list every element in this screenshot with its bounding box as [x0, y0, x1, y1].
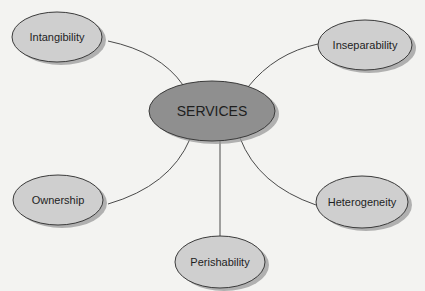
node-label: Ownership [32, 194, 85, 206]
center-node: SERVICES [149, 81, 275, 141]
node-label: Heterogeneity [328, 196, 397, 208]
node-inseparability: Inseparability [318, 20, 412, 70]
nodes: IntangibilityInseparabilityOwnershipHete… [12, 12, 412, 288]
connector-line-intangibility [108, 41, 183, 85]
connector-line-heterogeneity [240, 138, 316, 205]
services-diagram: IntangibilityInseparabilityOwnershipHete… [0, 0, 425, 291]
node-label: Intangibility [29, 31, 85, 43]
center-label: SERVICES [177, 103, 248, 119]
node-perishability: Perishability [175, 236, 265, 288]
connector-line-inseparability [248, 44, 318, 87]
node-label: Perishability [190, 256, 250, 268]
connector-line-ownership [108, 139, 190, 204]
node-ownership: Ownership [13, 175, 103, 225]
node-label: Inseparability [333, 39, 398, 51]
node-intangibility: Intangibility [12, 12, 102, 62]
node-heterogeneity: Heterogeneity [316, 176, 408, 228]
